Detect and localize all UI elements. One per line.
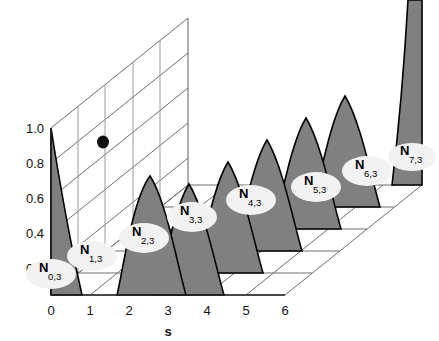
curve-label-n73-name: N: [400, 143, 409, 158]
curve-label-n63-sub: 6,3: [364, 168, 377, 179]
curve-label-n73-sub: 7,3: [409, 154, 422, 165]
curve-label-n53-sub: 5,3: [313, 184, 326, 195]
curve-label-n03-name: N: [39, 260, 48, 275]
curve-label-n23-name: N: [132, 224, 141, 239]
x-tick-4: 4: [203, 303, 210, 318]
x-tick-2: 2: [125, 303, 132, 318]
curve-label-n53: N 5,3: [291, 172, 341, 202]
curve-label-n33-name: N: [180, 203, 189, 218]
curve-label-n03-sub: 0,3: [48, 271, 61, 282]
y-tick-5: 1.0: [26, 121, 44, 136]
x-tick-1: 1: [86, 303, 93, 318]
curve-label-n13-sub: 1,3: [89, 253, 102, 264]
curve-label-n73: N 7,3: [388, 143, 436, 171]
black-dot-marker: [97, 136, 109, 149]
curve-label-n53-name: N: [304, 173, 313, 188]
y-tick-4: 0.8: [26, 156, 44, 171]
curve-label-n13-name: N: [80, 242, 89, 257]
curve-label-n63-name: N: [355, 157, 364, 172]
curve-label-n43-sub: 4,3: [248, 197, 261, 208]
x-tick-0: 0: [47, 303, 54, 318]
curve-label-n33: N 3,3: [167, 202, 217, 232]
curve-label-n23: N 2,3: [119, 223, 169, 253]
bspline-basis-chart: 1.0 0.8 0.6 0.4 0.2 0 1 2 3 4 5 6 s N 0,…: [0, 0, 439, 341]
x-tick-3: 3: [164, 303, 171, 318]
curve-label-n13: N 1,3: [67, 241, 117, 271]
curve-label-n43-name: N: [239, 186, 248, 201]
x-tick-6: 6: [281, 303, 288, 318]
curve-label-n03: N 0,3: [26, 259, 76, 289]
curve-label-n43: N 4,3: [226, 185, 276, 215]
x-axis-title: s: [164, 324, 171, 339]
y-tick-2: 0.4: [26, 226, 44, 241]
y-tick-3: 0.6: [26, 191, 44, 206]
curve-label-n23-sub: 2,3: [141, 235, 154, 246]
x-tick-5: 5: [242, 303, 249, 318]
curve-label-n33-sub: 3,3: [189, 214, 202, 225]
curve-label-n63: N 6,3: [342, 156, 392, 186]
